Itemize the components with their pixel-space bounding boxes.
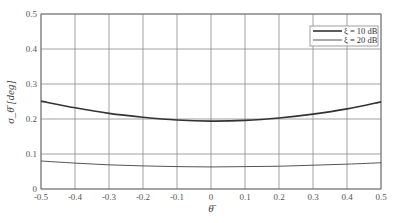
x-tick-label: 0.3	[307, 192, 319, 202]
legend-label-series-2: ξ = 20 dB	[344, 35, 378, 45]
line-chart: -0.5-0.4-0.3-0.2-0.100.10.20.30.40.5 00.…	[0, 0, 395, 223]
legend: ξ = 10 dB ξ = 20 dB	[310, 26, 378, 46]
x-tick-label: -0.3	[102, 192, 117, 202]
y-tick-label: 0.3	[26, 79, 38, 89]
x-tick-label: -0.2	[136, 192, 150, 202]
x-tick-label: 0	[209, 192, 214, 202]
x-axis-ticks: -0.5-0.4-0.3-0.2-0.100.10.20.30.40.5	[34, 192, 387, 202]
y-tick-label: 0.2	[26, 114, 37, 124]
y-axis-ticks: 00.10.20.30.40.5	[26, 9, 38, 194]
x-tick-label: -0.4	[68, 192, 83, 202]
y-axis-label: σ_θ̄ [deg]	[4, 80, 16, 124]
x-tick-label: 0.1	[239, 192, 250, 202]
x-axis-label: θ̄	[208, 202, 216, 214]
x-tick-label: 0.5	[375, 192, 387, 202]
y-tick-label: 0	[33, 184, 38, 194]
x-tick-label: 0.2	[273, 192, 284, 202]
y-tick-label: 0.5	[26, 9, 38, 19]
y-tick-label: 0.1	[26, 149, 37, 159]
x-tick-label: -0.1	[170, 192, 184, 202]
x-tick-label: 0.4	[341, 192, 353, 202]
y-tick-label: 0.4	[26, 44, 38, 54]
